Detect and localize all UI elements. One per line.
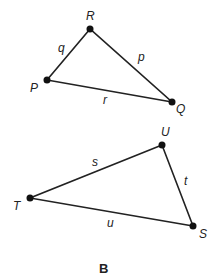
label-side-r: r [103, 93, 108, 107]
label-side-t: t [184, 174, 188, 188]
label-q-vertex: Q [176, 102, 185, 116]
label-t-vertex: T [13, 199, 22, 213]
label-p-vertex: P [30, 81, 38, 95]
triangle-diagram: R P Q q p r U T S s t u B [0, 0, 217, 279]
vertex-r [87, 26, 94, 33]
triangle-stu: U T S s t u [13, 125, 207, 241]
triangle-pqr: R P Q q p r [30, 9, 185, 116]
vertex-q [169, 99, 176, 106]
label-side-p: p [137, 50, 145, 64]
label-side-q: q [58, 41, 65, 55]
label-u-vertex: U [161, 125, 170, 139]
vertex-t [27, 195, 34, 202]
vertex-u [159, 142, 166, 149]
label-s-vertex: S [199, 227, 207, 241]
vertex-p [44, 77, 51, 84]
label-side-s: s [92, 155, 98, 169]
figure-caption: B [99, 261, 108, 276]
vertex-s [190, 223, 197, 230]
label-side-u: u [107, 216, 114, 230]
label-r-vertex: R [86, 9, 95, 23]
